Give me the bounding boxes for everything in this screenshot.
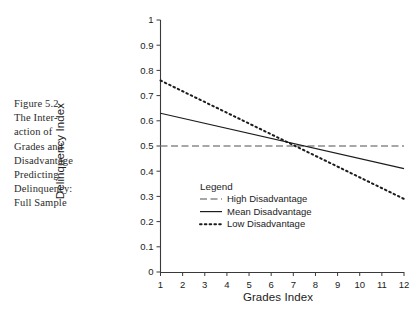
y-tick-label: 0.3 (140, 191, 153, 202)
y-tick-label: 0.8 (140, 65, 153, 76)
legend-label: Low Disadvantage (227, 218, 305, 229)
x-tick-label: 6 (269, 279, 274, 290)
y-tick-label: 0.7 (140, 90, 153, 101)
series-line (161, 113, 405, 168)
x-tick-label: 1 (158, 279, 163, 290)
x-tick-label: 5 (246, 279, 251, 290)
y-tick-label: 0.4 (140, 166, 153, 177)
x-axis-ticks: 123456789101112 (158, 272, 409, 290)
chart-legend: Legend High DisadvantageMean Disadvantag… (200, 181, 312, 229)
legend-title: Legend (200, 181, 233, 192)
y-tick-label: 0.1 (140, 241, 153, 252)
x-tick-label: 3 (202, 279, 207, 290)
x-axis-title: Grades Index (150, 291, 406, 303)
legend-label: Mean Disadvantage (227, 206, 312, 217)
x-tick-label: 11 (377, 279, 387, 290)
data-series-group (161, 80, 405, 198)
x-tick-label: 8 (313, 279, 318, 290)
y-axis-ticks: 00.10.20.30.40.50.60.70.80.91 (140, 14, 160, 277)
legend-label: High Disadvantage (227, 193, 307, 204)
x-tick-label: 7 (291, 279, 296, 290)
chart-container: 00.10.20.30.40.50.60.70.80.91 1234567891… (0, 0, 417, 314)
y-tick-label: 0.6 (140, 115, 153, 126)
legend-items: High DisadvantageMean DisadvantageLow Di… (200, 193, 312, 229)
series-line (161, 80, 405, 198)
x-tick-label: 12 (399, 279, 410, 290)
x-tick-label: 9 (335, 279, 340, 290)
y-tick-label: 0 (148, 266, 153, 277)
y-tick-label: 0.5 (140, 140, 153, 151)
y-tick-label: 1 (148, 14, 153, 25)
y-tick-label: 0.2 (140, 216, 153, 227)
y-axis-title: Delinquency Index (54, 51, 66, 251)
x-tick-label: 4 (224, 279, 229, 290)
y-tick-label: 0.9 (140, 40, 153, 51)
x-tick-label: 2 (180, 279, 185, 290)
x-tick-label: 10 (354, 279, 365, 290)
